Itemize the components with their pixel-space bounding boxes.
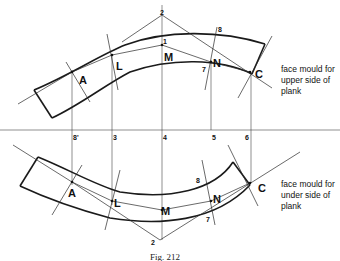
lower-label-7: 7 (206, 216, 210, 223)
lower-mould-left-end (20, 157, 38, 186)
lower-point-a: A (68, 187, 76, 199)
upper-label-1: 1 (163, 38, 167, 45)
upper-label-7: 7 (202, 66, 206, 73)
lower-note-line-1: face mould for (281, 179, 335, 189)
tick-label-3: 3 (113, 134, 117, 141)
face-mould-diagram: 2 1 8 7 A L M N C face mould for upper s… (0, 0, 340, 261)
lower-normal-c (228, 145, 258, 206)
point-markers (71, 44, 252, 212)
lower-note-line-3: plank (281, 201, 302, 211)
upper-normal-c (238, 36, 272, 98)
tick-label-5: 5 (212, 134, 216, 141)
upper-point-a: A (79, 74, 87, 86)
upper-note-line-1: face mould for (281, 64, 335, 74)
tick-label-6: 6 (245, 134, 249, 141)
lower-note-line-2: under side of (281, 190, 331, 200)
upper-point-n: N (213, 57, 221, 69)
upper-mould-inner-edge (52, 62, 252, 118)
upper-centre-line (18, 45, 250, 104)
upper-face-mould (18, 15, 272, 118)
upper-point-l: L (116, 60, 123, 72)
upper-mould-outer-edge (34, 34, 265, 90)
lower-mould-right-end (233, 162, 250, 185)
upper-mould-left-end (34, 90, 52, 118)
upper-tangent-left (122, 15, 162, 42)
upper-point-c: C (255, 68, 263, 80)
lower-face-mould (13, 145, 300, 240)
upper-point-m: M (164, 51, 173, 63)
tick-label-4: 4 (163, 134, 167, 141)
lower-point-n: N (213, 193, 221, 205)
tick-label-8prime: 8' (73, 134, 79, 141)
upper-label-2: 2 (160, 9, 164, 16)
figure-caption: Fig. 212 (150, 252, 180, 261)
lower-point-c: C (258, 182, 266, 194)
upper-note-line-3: plank (281, 86, 302, 96)
upper-label-8: 8 (218, 26, 222, 33)
upper-note-line-2: upper side of (281, 75, 331, 85)
lower-label-8: 8 (196, 177, 200, 184)
lower-label-2: 2 (151, 239, 155, 246)
lower-point-l: L (114, 197, 121, 209)
